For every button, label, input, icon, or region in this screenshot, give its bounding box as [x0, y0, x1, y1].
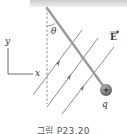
- field-label: E: [110, 33, 117, 42]
- charged-pendulum-diagram: [0, 0, 127, 134]
- ceiling: [30, 0, 127, 7]
- charge-label: q: [102, 100, 108, 109]
- y-axis-label: y: [5, 37, 10, 46]
- field-arrowheads: [56, 60, 84, 92]
- theta-label: θ: [51, 27, 56, 36]
- figure-caption: 그림 P23.20: [0, 124, 127, 134]
- charged-ball: [100, 84, 112, 96]
- x-axis-label: x: [35, 69, 40, 78]
- coordinate-axes: [8, 48, 33, 74]
- field-line-2: [47, 38, 98, 107]
- pendulum-string: [47, 8, 104, 87]
